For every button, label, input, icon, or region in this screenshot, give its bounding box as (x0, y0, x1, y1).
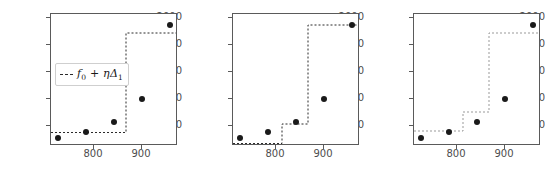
x-tick-label: 800 (436, 149, 476, 159)
chart-panel-1: 2000 1800 1600 1400 1200 800 900 (0, 0, 182, 171)
data-point (167, 22, 173, 28)
figure-canvas: 2000 1800 1600 1400 1200 800 900 (0, 0, 545, 171)
plot-area-3 (414, 14, 539, 144)
x-tick-label: 900 (484, 149, 524, 159)
data-point (293, 119, 299, 125)
axes-frame-2 (232, 13, 359, 145)
legend-delta-1: Δ1 (110, 67, 123, 80)
legend-plus: + (86, 67, 103, 80)
data-point (446, 129, 452, 135)
x-tick-label: 900 (121, 149, 161, 159)
x-tick-label: 900 (303, 149, 343, 159)
step-line-3 (414, 14, 539, 144)
chart-panel-2: 2000 1800 1600 1400 1200 800 900 (182, 0, 364, 171)
data-point (474, 119, 480, 125)
data-point (502, 96, 508, 102)
data-point (349, 22, 355, 28)
data-point (111, 119, 117, 125)
data-point (55, 135, 61, 141)
data-point (530, 22, 536, 28)
x-tick-label: 800 (73, 149, 113, 159)
legend-f0: f0 (77, 67, 86, 80)
chart-panel-3: 2000 1800 1600 1400 1200 800 900 (363, 0, 545, 171)
step-line-2 (233, 14, 358, 144)
legend-1: f0 + ηΔ1 (55, 63, 129, 86)
data-point (237, 135, 243, 141)
legend-line-swatch-icon (60, 74, 73, 76)
axes-frame-3 (413, 13, 540, 145)
x-tick-label: 800 (255, 149, 295, 159)
legend-label-1: f0 + ηΔ1 (77, 67, 123, 82)
legend-eta: η (103, 67, 110, 80)
data-point (321, 96, 327, 102)
data-point (139, 96, 145, 102)
data-point (83, 129, 89, 135)
data-point (418, 135, 424, 141)
data-point (265, 129, 271, 135)
plot-area-2 (233, 14, 358, 144)
